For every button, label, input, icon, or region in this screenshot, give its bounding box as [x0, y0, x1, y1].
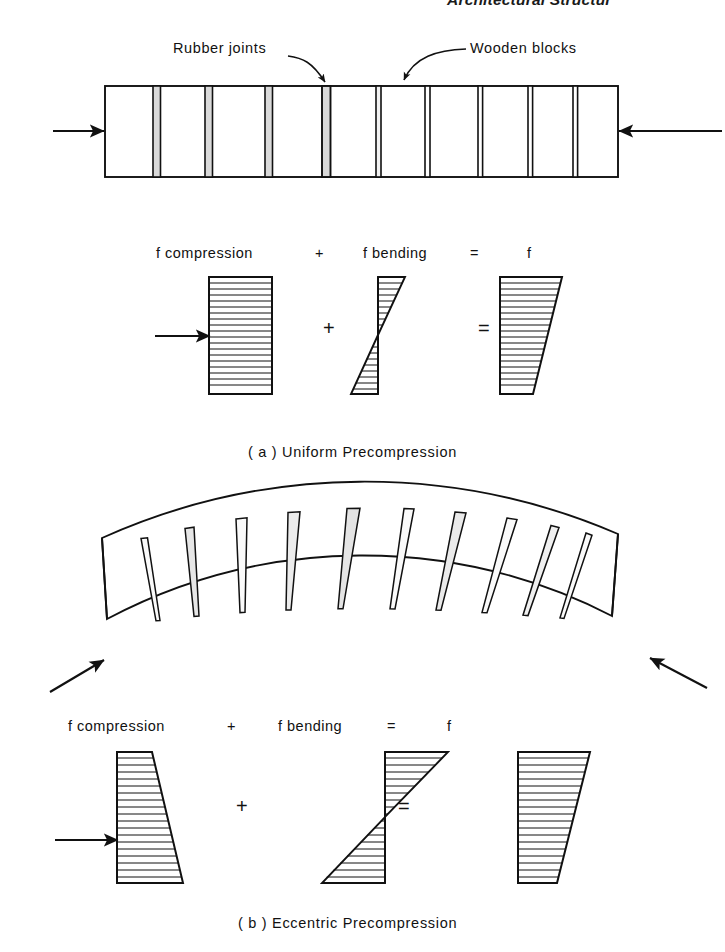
arch-load-arrow-left: [50, 660, 104, 692]
block-joint: [425, 86, 430, 177]
figure-a-beam: [53, 49, 722, 177]
rubber-joint: [205, 86, 213, 177]
rubber-joints-leader: [288, 56, 325, 82]
arch-joint: [236, 518, 247, 613]
fig-b-stress-bending: [322, 752, 448, 883]
block-joint: [573, 86, 578, 177]
rubber-joint: [322, 86, 331, 177]
fig-a-stress-bending: [351, 277, 405, 394]
beam-outline: [105, 86, 618, 177]
arch-load-arrow-right: [650, 658, 707, 688]
fig-a-stress-compression: [155, 277, 272, 394]
rubber-joint: [153, 86, 161, 177]
rubber-joint: [265, 86, 273, 177]
bending-stress-upper: [378, 277, 405, 335]
block-joint: [478, 86, 483, 177]
block-joint: [528, 86, 533, 177]
fig-b-stress-compression: [55, 752, 183, 883]
figure-b-arch: [50, 482, 707, 692]
technical-drawing-canvas: [0, 0, 725, 952]
bending-stress-lower: [322, 817, 385, 883]
arch-joint: [286, 512, 300, 610]
fig-a-stress-result: [500, 277, 562, 394]
arch-outline: [102, 482, 618, 619]
wooden-blocks-leader: [404, 49, 466, 80]
rubber-joint: [376, 86, 381, 177]
figure-page: Architectural Structur Rubber joints Woo…: [0, 0, 725, 952]
fig-b-stress-result: [518, 752, 590, 883]
